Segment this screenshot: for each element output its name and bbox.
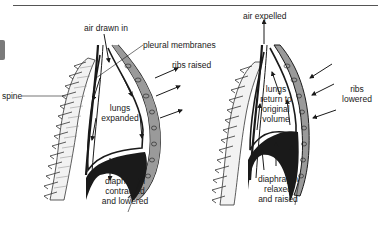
label-ribs-lowered: ribs lowered (340, 84, 374, 104)
label-diaphragm-relaxed: diaphragm relaxed and raised (250, 174, 306, 204)
label-lungs-return-line1: lungs (254, 84, 298, 94)
label-diaphragm-relaxed-line3: and raised (250, 194, 306, 204)
label-lungs-return: lungs return to original volume (254, 84, 298, 124)
label-diaphragm-contracted: diaphragm contracted and lowered (95, 176, 155, 206)
label-diaphragm-contracted-line2: contracted (95, 186, 155, 196)
label-spine: spine (2, 91, 22, 101)
label-lungs-return-line3: original (254, 104, 298, 114)
label-lungs-expanded-line1: lungs (100, 103, 140, 113)
label-diaphragm-relaxed-line1: diaphragm (250, 174, 306, 184)
label-lungs-expanded: lungs expanded (100, 103, 140, 123)
label-pleural-membranes: pleural membranes (143, 40, 216, 50)
label-diaphragm-contracted-line3: and lowered (95, 196, 155, 206)
label-ribs-lowered-line2: lowered (340, 94, 374, 104)
label-air-drawn-in: air drawn in (84, 23, 128, 33)
label-ribs-lowered-line1: ribs (340, 84, 374, 94)
label-lungs-return-line4: volume (254, 114, 298, 124)
label-ribs-raised: ribs raised (172, 60, 211, 70)
label-lungs-return-line2: return to (254, 94, 298, 104)
label-diaphragm-contracted-line1: diaphragm (95, 176, 155, 186)
label-diaphragm-relaxed-line2: relaxed (250, 184, 306, 194)
label-lungs-expanded-line2: expanded (100, 113, 140, 123)
label-air-expelled: air expelled (243, 11, 286, 21)
breathing-diagram (0, 0, 378, 226)
